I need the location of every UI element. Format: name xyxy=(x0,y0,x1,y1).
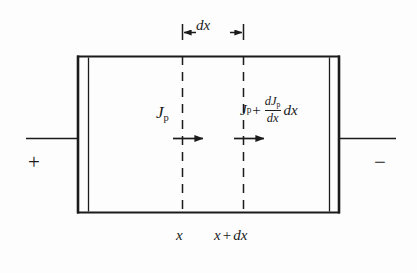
semiconductor-bar-figure: dx Jp Jp+ dJp dx dx + − x x+dx xyxy=(0,0,417,273)
current-density-left-label: Jp xyxy=(156,104,169,124)
figure-line-art xyxy=(0,0,417,273)
fraction-numerator: dJp xyxy=(263,95,283,110)
negative-terminal-label: − xyxy=(374,152,386,173)
positive-terminal-label: + xyxy=(28,152,40,173)
fraction-denominator: dx xyxy=(265,110,281,125)
derivative-fraction: dJp dx xyxy=(263,95,283,125)
section-boundary-lines xyxy=(183,56,244,213)
dx-dimension-line xyxy=(183,24,244,40)
semiconductor-bar-outline xyxy=(77,56,340,214)
position-label-x-plus-dx: x+dx xyxy=(214,228,247,243)
position-label-x: x xyxy=(176,228,183,243)
current-density-right-label: Jp+ dJp dx dx xyxy=(240,96,298,126)
dx-dimension-label: dx xyxy=(196,18,210,33)
